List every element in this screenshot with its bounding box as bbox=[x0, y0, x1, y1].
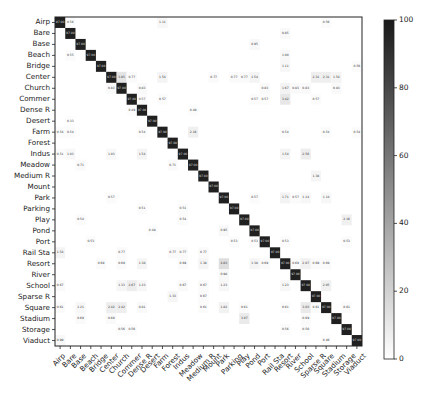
cell-value: 1.23 bbox=[280, 280, 290, 291]
cell-value: 1.71 bbox=[280, 192, 290, 203]
cell-value: 1.54 bbox=[280, 149, 290, 160]
cell-value: 0.56 bbox=[301, 324, 311, 335]
diagonal-value: 97.00 bbox=[239, 214, 249, 225]
diagonal-value: 97.00 bbox=[321, 302, 331, 313]
diagonal-value: 97.00 bbox=[65, 28, 75, 39]
cell-value: 1.14 bbox=[321, 192, 331, 203]
cell-value: 0.33 bbox=[65, 116, 75, 127]
cell-value: 0.61 bbox=[55, 302, 65, 313]
cell-value: 1.21 bbox=[75, 302, 85, 313]
cell-value: 0.61 bbox=[342, 302, 352, 313]
cell-value: 2.16 bbox=[342, 214, 352, 225]
cell-value: 0.57 bbox=[157, 94, 167, 105]
diagonal-value: 97.00 bbox=[301, 280, 311, 291]
cell-value: 0.53 bbox=[249, 236, 259, 247]
diagonal-value: 97.00 bbox=[198, 171, 208, 182]
cell-value: 0.71 bbox=[168, 160, 178, 171]
diagonal-value: 97.00 bbox=[96, 61, 106, 72]
cell-value: 0.83 bbox=[331, 83, 341, 94]
cell-value: 0.54 bbox=[55, 127, 65, 138]
cell-value: 0.57 bbox=[249, 192, 259, 203]
diagonal-value: 97.00 bbox=[290, 269, 300, 280]
cell-value: 0.69 bbox=[106, 313, 116, 324]
diagonal-value: 97.00 bbox=[86, 50, 96, 61]
colorbar-tick-label: 20 bbox=[399, 287, 409, 295]
cell-value: 0.67 bbox=[55, 280, 65, 291]
cell-value: 1.11 bbox=[157, 17, 167, 28]
cell-value: 0.53 bbox=[86, 236, 96, 247]
cell-value: 0.56 bbox=[127, 324, 137, 335]
cell-value: 0.81 bbox=[137, 302, 147, 313]
cell-value: 0.55 bbox=[65, 50, 75, 61]
colorbar-tick-label: 40 bbox=[399, 219, 409, 227]
diagonal-value: 97.00 bbox=[311, 291, 321, 302]
cell-value: 1.33 bbox=[116, 280, 126, 291]
cell-value: 0.53 bbox=[280, 236, 290, 247]
cell-value: 0.71 bbox=[75, 160, 85, 171]
cell-value: 1.82 bbox=[219, 302, 229, 313]
diagonal-value: 97.00 bbox=[260, 236, 270, 247]
cell-value: 0.69 bbox=[290, 258, 300, 269]
cell-value: 0.57 bbox=[260, 94, 270, 105]
cell-value: 0.54 bbox=[65, 127, 75, 138]
colorbar-tick-label: 100 bbox=[399, 16, 413, 24]
cell-value: 0.61 bbox=[311, 302, 321, 313]
cell-value: 0.83 bbox=[137, 83, 147, 94]
diagonal-value: 97.00 bbox=[116, 83, 126, 94]
cell-value: 0.69 bbox=[116, 258, 126, 269]
cell-value: 0.69 bbox=[311, 258, 321, 269]
diagonal-value: 97.00 bbox=[127, 94, 137, 105]
cell-value: 2.67 bbox=[127, 280, 137, 291]
cell-value: 0.56 bbox=[280, 324, 290, 335]
cell-value: 1.11 bbox=[280, 61, 290, 72]
cell-value: 2.56 bbox=[301, 149, 311, 160]
diagonal-value: 97.00 bbox=[137, 105, 147, 116]
cell-value: 1.54 bbox=[249, 72, 259, 83]
diagonal-value: 97.00 bbox=[331, 313, 341, 324]
cell-value: 0.57 bbox=[311, 94, 321, 105]
cell-value: 0.51 bbox=[55, 149, 65, 160]
colorbar bbox=[384, 20, 394, 359]
cell-value: 0.69 bbox=[301, 313, 311, 324]
colorbar-tick-label: 80 bbox=[399, 84, 409, 92]
cell-value: 0.51 bbox=[137, 203, 147, 214]
cell-value: 0.57 bbox=[249, 94, 259, 105]
cell-value: 1.54 bbox=[157, 72, 167, 83]
cell-value: 0.57 bbox=[106, 192, 116, 203]
cell-value: 0.56 bbox=[65, 17, 75, 28]
cell-value: 0.56 bbox=[321, 17, 331, 28]
cell-value: 0.61 bbox=[198, 302, 208, 313]
cell-value: 0.54 bbox=[280, 127, 290, 138]
cell-value: 0.56 bbox=[116, 324, 126, 335]
cell-value: 0.49 bbox=[127, 105, 137, 116]
cell-value: 1.14 bbox=[301, 192, 311, 203]
cell-value: 3.85 bbox=[116, 72, 126, 83]
cell-value: 1.38 bbox=[249, 258, 259, 269]
cell-value: 4.83 bbox=[219, 258, 229, 269]
cell-value: 1.54 bbox=[137, 149, 147, 160]
cell-value: 3.42 bbox=[280, 94, 290, 105]
cell-value: 0.49 bbox=[188, 105, 198, 116]
cell-value: 0.77 bbox=[239, 72, 249, 83]
cell-value: 2.42 bbox=[116, 302, 126, 313]
cell-value: 0.77 bbox=[229, 72, 239, 83]
cell-value: 1.33 bbox=[168, 291, 178, 302]
cell-value: 0.77 bbox=[209, 72, 219, 83]
cell-value: 0.51 bbox=[178, 203, 188, 214]
cell-value: 1.54 bbox=[55, 247, 65, 258]
cell-value: 1.23 bbox=[137, 280, 147, 291]
cell-value: 0.77 bbox=[178, 247, 188, 258]
cell-value: 0.98 bbox=[219, 269, 229, 280]
cell-value: 1.38 bbox=[137, 258, 147, 269]
cell-value: 1.67 bbox=[280, 83, 290, 94]
diagonal-value: 97.00 bbox=[342, 324, 352, 335]
cell-value: 0.69 bbox=[96, 258, 106, 269]
cell-value: 2.42 bbox=[106, 302, 116, 313]
diagonal-value: 97.00 bbox=[55, 17, 65, 28]
cell-value: 0.95 bbox=[249, 39, 259, 50]
cell-value: 0.67 bbox=[198, 280, 208, 291]
cell-value: 0.69 bbox=[178, 258, 188, 269]
cell-value: 0.69 bbox=[75, 313, 85, 324]
cell-value: 1.38 bbox=[198, 258, 208, 269]
cell-value: 0.83 bbox=[106, 83, 116, 94]
